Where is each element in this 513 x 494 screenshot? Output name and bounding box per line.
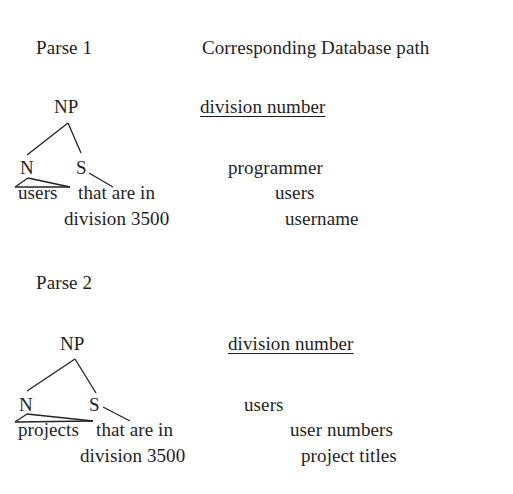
parse2-n-node: N (19, 395, 33, 414)
parse2-db-item: users (244, 395, 284, 414)
parse1-n-node: N (20, 158, 34, 177)
parse2-db-item: project titles (301, 446, 397, 465)
parse1-db-item: users (275, 183, 315, 202)
parse1-np-node: NP (54, 97, 79, 116)
parse1-clause-line2: division 3500 (64, 209, 169, 228)
parse2-head-noun: projects (18, 420, 79, 439)
parse1-db-item: username (285, 209, 359, 228)
parse2-db-key: division number (228, 334, 354, 353)
parse2-label: Parse 2 (36, 273, 92, 292)
parse1-s-node: S (76, 158, 87, 177)
parse1-head-noun: users (18, 183, 58, 202)
db-path-header: Corresponding Database path (202, 38, 429, 57)
parse1-label: Parse 1 (36, 38, 92, 57)
edge-np-n-2 (27, 359, 75, 391)
edge-np-s-2 (75, 359, 96, 393)
parse2-np-node: NP (60, 334, 85, 353)
edge-np-s-1 (68, 123, 81, 153)
parse2-clause-line2: division 3500 (80, 446, 185, 465)
parse1-db-item: programmer (228, 158, 323, 177)
edge-np-n-1 (27, 123, 68, 155)
parse2-s-node: S (89, 395, 100, 414)
parse2-clause-line1: that are in (96, 420, 173, 439)
parse1-db-key: division number (200, 97, 326, 116)
parse2-db-item: user numbers (290, 420, 393, 439)
parse1-clause-line1: that are in (78, 183, 155, 202)
